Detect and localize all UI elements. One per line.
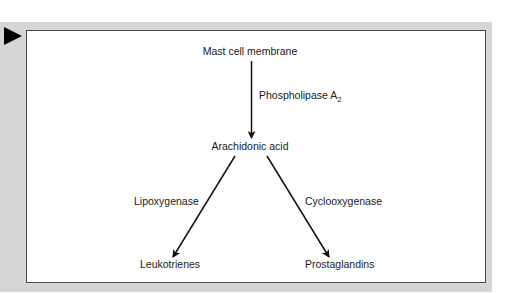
phospholipase-subscript: 2: [337, 95, 341, 104]
node-mast-cell-membrane: Mast cell membrane: [203, 46, 298, 57]
edge-label-lipoxygenase: Lipoxygenase: [134, 196, 199, 207]
edge-label-phospholipase: Phospholipase A2: [259, 90, 341, 101]
diagram-box: [26, 30, 486, 283]
node-prostaglandins: Prostaglandins: [305, 259, 374, 270]
node-leukotrienes: Leukotrienes: [140, 259, 200, 270]
edge-label-cyclooxygenase: Cyclooxygenase: [305, 196, 382, 207]
node-arachidonic-acid: Arachidonic acid: [211, 141, 288, 152]
triangle-marker-icon: [4, 27, 22, 45]
phospholipase-text: Phospholipase A: [259, 89, 337, 101]
